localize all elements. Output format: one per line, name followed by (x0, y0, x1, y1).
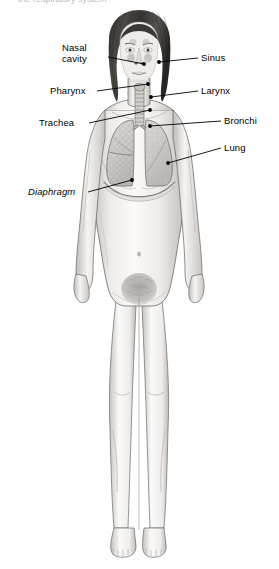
dot-pharynx (146, 82, 150, 86)
feet (111, 528, 166, 557)
label-diaphragm: Diaphragm (28, 186, 75, 197)
torso (94, 99, 185, 306)
label-pharynx: Pharynx (50, 85, 86, 96)
label-nasal-cavity-line1: Nasal (62, 42, 87, 53)
dot-lung (166, 161, 170, 165)
dot-bronchi (148, 124, 152, 128)
dot-sinus (157, 60, 161, 64)
respiratory-system-diagram: the respiratory system (0, 0, 279, 569)
label-sinus: Sinus (201, 52, 225, 63)
label-lung: Lung (224, 142, 246, 153)
dot-larynx (149, 95, 153, 99)
legs (109, 300, 168, 530)
body-group (74, 10, 204, 557)
dot-trachea (148, 108, 152, 112)
dot-diaphragm (130, 178, 134, 182)
face (120, 22, 158, 84)
label-trachea: Trachea (39, 117, 74, 128)
anatomy-illustration (0, 0, 279, 569)
label-larynx: Larynx (201, 85, 230, 96)
label-nasal-cavity-line2: cavity (62, 53, 87, 64)
label-bronchi: Bronchi (224, 115, 257, 126)
navel (137, 251, 141, 256)
dot-nasal-cavity (142, 62, 146, 66)
leader-larynx (151, 91, 198, 97)
trachea-tube (134, 83, 145, 126)
